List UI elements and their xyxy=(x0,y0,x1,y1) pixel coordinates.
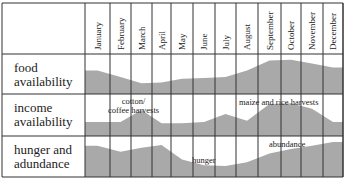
month-label-june: June xyxy=(199,34,209,51)
row-label-hunger-line2: adundance xyxy=(14,157,72,171)
month-label-april: April xyxy=(157,31,167,50)
row-label-food-line2: availability xyxy=(14,75,72,89)
row-label-income-line1: income xyxy=(14,101,72,115)
month-label-march: March xyxy=(137,27,147,51)
annotation-abundance: abundance xyxy=(269,140,305,149)
annotation-maize-rice-harvests: maize and rice harvests xyxy=(239,98,319,107)
month-label-february: February xyxy=(116,18,126,51)
month-label-july: July xyxy=(221,35,231,50)
month-label-may: May xyxy=(177,34,187,51)
row-label-income: income availability xyxy=(14,101,72,129)
month-label-september: September xyxy=(265,12,275,51)
seasonal-calendar-diagram: food availability income availability hu… xyxy=(0,0,344,184)
month-label-august: August xyxy=(242,24,252,50)
annotation-hunger: hunger xyxy=(192,156,216,165)
row-label-hunger-line1: hunger and xyxy=(14,143,72,157)
row-label-income-line2: availability xyxy=(14,115,72,129)
annotation-cotton-coffee-harvests: cotton/ coffee harvests xyxy=(108,97,159,115)
row-label-food: food availability xyxy=(14,61,72,89)
month-label-december: December xyxy=(328,13,338,50)
month-label-october: October xyxy=(286,21,296,50)
row-label-hunger: hunger and adundance xyxy=(14,143,72,171)
shaded-area-row-0 xyxy=(85,60,343,94)
annotation-cotton-line2: coffee harvests xyxy=(108,106,159,115)
row-label-food-line1: food xyxy=(14,61,72,75)
month-label-november: November xyxy=(307,12,317,50)
month-label-january: January xyxy=(93,22,103,50)
